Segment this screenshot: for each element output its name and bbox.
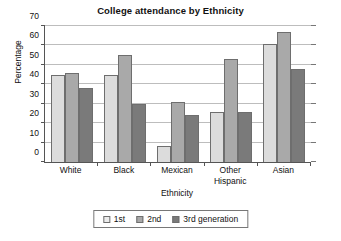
y-tick-mark-right [311, 64, 316, 65]
y-tick-mark-right [311, 44, 316, 45]
chart-legend: 1st2nd3rd generation [93, 210, 248, 228]
chart-figure: College attendance by Ethnicity Percenta… [0, 0, 341, 241]
x-axis-label: Ethnicity [44, 188, 310, 198]
chart-title: College attendance by Ethnicity [0, 5, 341, 16]
legend-item: 1st [103, 214, 125, 224]
y-tick-label: 40 [30, 69, 39, 79]
bar-group [258, 26, 311, 162]
y-tick-mark-right [311, 83, 316, 84]
legend-swatch [136, 216, 143, 223]
legend-item: 3rd generation [172, 214, 238, 224]
bar [118, 55, 132, 162]
legend-label: 3rd generation [183, 214, 238, 224]
bar [132, 104, 146, 162]
bar [171, 102, 185, 162]
bar-group [98, 26, 151, 162]
bar [157, 146, 171, 162]
x-tick-label: Black [97, 165, 150, 186]
bar [185, 115, 199, 162]
y-tick-label: 20 [30, 108, 39, 118]
x-axis-tick-labels: WhiteBlackMexicanOtherHispanicAsian [44, 165, 310, 186]
bar [224, 59, 238, 162]
bar [238, 112, 252, 163]
x-tick-label: OtherHispanic [204, 165, 257, 186]
y-tick-label: 0 [34, 147, 39, 157]
bar-groups [45, 26, 311, 162]
y-tick-label: 50 [30, 50, 39, 60]
y-axis-label: Percentage [13, 12, 23, 112]
x-tick-mark [310, 162, 311, 166]
bar [104, 75, 118, 162]
bar [79, 88, 93, 162]
legend-label: 1st [114, 214, 125, 224]
plot-area: 010203040506070 [44, 26, 311, 163]
y-tick-label: 30 [30, 89, 39, 99]
y-tick-mark-right [311, 25, 316, 26]
legend-label: 2nd [147, 214, 161, 224]
bar [263, 44, 277, 163]
y-tick-mark-right [311, 122, 316, 123]
x-tick-label: Mexican [150, 165, 203, 186]
bar-group [45, 26, 98, 162]
bar [277, 32, 291, 162]
y-tick-label: 60 [30, 30, 39, 40]
legend-swatch [172, 216, 179, 223]
y-tick-mark-right [311, 161, 316, 162]
y-tick-mark-right [311, 103, 316, 104]
legend-item: 2nd [136, 214, 161, 224]
x-tick-label: Asian [257, 165, 310, 186]
y-tick-label: 70 [30, 11, 39, 21]
bar [65, 73, 79, 162]
bar [210, 112, 224, 163]
y-tick-label: 10 [30, 128, 39, 138]
bar [291, 69, 305, 162]
legend-swatch [103, 216, 110, 223]
bar-group [205, 26, 258, 162]
y-tick-mark-right [311, 142, 316, 143]
x-tick-label: White [44, 165, 97, 186]
bar [51, 75, 65, 162]
bar-group [151, 26, 204, 162]
